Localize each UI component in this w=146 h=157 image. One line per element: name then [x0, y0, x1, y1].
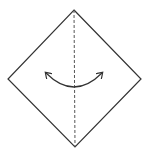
origami-diagram	[0, 0, 146, 157]
valley-fold-line	[74, 10, 75, 147]
diagram-canvas	[0, 0, 146, 157]
